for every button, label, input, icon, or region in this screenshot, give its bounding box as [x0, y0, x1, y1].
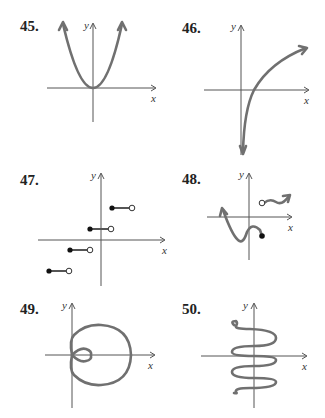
problem-48: 48. y x [160, 150, 325, 260]
x-axis-label: x [147, 359, 153, 371]
problem-49: 49. y x [0, 280, 165, 418]
x-axis-label: x [150, 92, 156, 104]
graph-46: y x [160, 0, 325, 160]
y-axis-label: y [61, 299, 67, 311]
graph-45: y x [0, 0, 160, 140]
problem-50: 50. y x [160, 280, 325, 418]
problem-47: 47. y x [0, 140, 165, 290]
graph-50: y x [160, 280, 325, 418]
graph-47: y x [0, 140, 165, 290]
x-axis-label: x [287, 221, 293, 233]
graph-48: y x [160, 150, 325, 260]
y-axis-label: y [238, 168, 244, 180]
x-axis-label: x [301, 360, 307, 372]
y-axis-label: y [90, 169, 96, 181]
y-axis-label: y [230, 20, 236, 32]
problem-45: 45. y x [0, 0, 160, 140]
graph-49: y x [0, 280, 165, 418]
x-axis-label: x [303, 94, 309, 106]
problem-46: 46. y x [160, 0, 325, 160]
y-axis-label: y [83, 19, 89, 31]
y-axis-label: y [242, 299, 248, 311]
